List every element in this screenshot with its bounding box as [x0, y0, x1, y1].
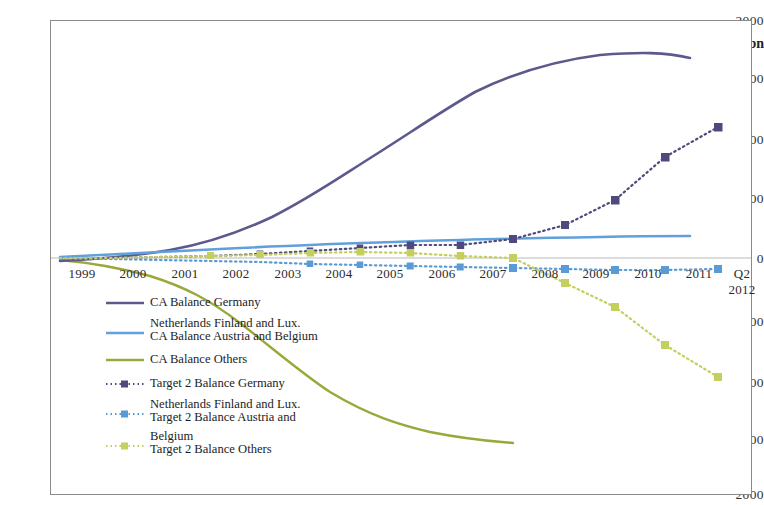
x-tick-2000: 2000 [120, 266, 147, 282]
legend-swatch-solid-blue-icon [104, 326, 146, 340]
x-tick-2003: 2003 [275, 266, 302, 282]
series-ca-balance-germany [60, 53, 690, 261]
x-tick-1999: 1999 [69, 266, 96, 282]
legend-label-ca-balance-germany: CA Balance Germany [150, 296, 434, 309]
legend-swatch-dotted-purple-square-icon [104, 377, 146, 391]
legend-wraptext-t2-germany-continued: Netherlands Finland and Lux. [150, 398, 434, 411]
legend-item-target2-austria-belgium[interactable]: Netherlands Finland and Lux. Target 2 Ba… [104, 398, 434, 424]
x-tick-2002: 2002 [223, 266, 250, 282]
legend-wraptext-ca-germany-continued: Netherlands Finland and Lux. [150, 317, 434, 330]
legend-item-ca-balance-others[interactable]: CA Balance Others [104, 353, 434, 367]
x-tick-q2-line1: Q2 [734, 266, 750, 281]
legend-item-target2-others[interactable]: Belgium Target 2 Balance Others [104, 430, 434, 456]
x-tick-2001: 2001 [172, 266, 199, 282]
x-tick-2008: 2008 [532, 266, 559, 282]
x-tick-2005: 2005 [377, 266, 404, 282]
legend-item-ca-balance-germany[interactable]: CA Balance Germany [104, 296, 434, 310]
x-tick-q2-line2: 2012 [729, 282, 756, 298]
legend-item-target2-germany[interactable]: Target 2 Balance Germany [104, 377, 434, 391]
chart-container: € bn 2000 1500 1000 500 0 -500 1000 1500… [0, 0, 764, 505]
legend-label-target2-austria-belgium: Target 2 Balance Austria and [150, 411, 434, 424]
chart-legend: CA Balance Germany Netherlands Finland a… [104, 296, 434, 457]
x-tick-2009: 2009 [583, 266, 610, 282]
legend-item-ca-balance-austria-belgium[interactable]: Netherlands Finland and Lux. CA Balance … [104, 317, 434, 343]
x-tick-q2-2012: Q2 2012 [729, 266, 756, 298]
legend-swatch-dotted-lightolive-square-icon [104, 439, 146, 453]
x-tick-2007: 2007 [480, 266, 507, 282]
x-tick-2010: 2010 [635, 266, 662, 282]
x-tick-2011: 2011 [686, 266, 712, 282]
legend-label-target2-others: Target 2 Balance Others [150, 443, 434, 456]
legend-label-target2-germany: Target 2 Balance Germany [150, 377, 434, 390]
legend-label-ca-balance-austria-belgium: CA Balance Austria and Belgium [150, 330, 434, 343]
legend-label-ca-balance-others: CA Balance Others [150, 353, 434, 366]
legend-swatch-solid-purple-icon [104, 296, 146, 310]
legend-swatch-dotted-blue-square-icon [104, 407, 146, 421]
x-tick-2004: 2004 [326, 266, 353, 282]
x-tick-2006: 2006 [429, 266, 456, 282]
legend-swatch-solid-olive-icon [104, 353, 146, 367]
